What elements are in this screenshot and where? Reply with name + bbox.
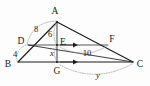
measure-label-ae: 6 [48,29,52,39]
vertex-label-a: A [52,6,59,16]
vertex-label-e: E [60,37,66,47]
geometry-figure: A B C D E F G 8 4 6 x 10 y [0,0,150,86]
vertex-label-b: B [5,59,11,69]
dot-e [56,44,58,46]
dot-g [56,61,58,63]
vertex-labels: A B C D E F G [5,6,143,76]
measure-label-ad: 8 [34,24,38,34]
measure-label-ef: 10 [83,48,92,58]
vertex-label-c: C [137,59,143,69]
vertex-label-g: G [54,66,61,76]
measure-label-eg: x [49,48,54,58]
vertex-label-f: F [109,34,114,44]
internal-segments [28,22,133,62]
arc-ae-6 [54,23,56,44]
arrowhead-g-right [73,60,78,65]
arrowhead-e-right [73,43,78,48]
geometry-diagram-canvas: A B C D E F G 8 4 6 x 10 y [0,0,150,86]
dot-a [56,21,58,23]
vertex-label-d: D [18,36,25,46]
measure-label-gc: y [95,70,100,80]
